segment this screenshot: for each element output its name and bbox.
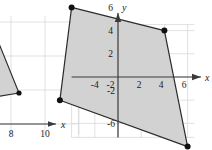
left-x-axis-arrow-icon bbox=[48, 121, 56, 127]
math-figure: 8 10 x bbox=[0, 0, 212, 150]
right-xtick-minus2: -2 bbox=[107, 80, 115, 90]
right-coordinate-plane: 6 4 2 -2 -6 -4 -2 2 4 6 x y bbox=[57, 2, 210, 150]
right-xtick-4: 4 bbox=[159, 80, 164, 90]
right-polygon-vertex bbox=[161, 28, 167, 34]
right-xtick-minus4: -4 bbox=[91, 80, 99, 90]
left-polygon bbox=[0, 36, 19, 101]
right-ytick-6: 6 bbox=[108, 3, 113, 13]
right-y-axis-arrow-icon bbox=[115, 13, 121, 22]
right-y-axis-label: y bbox=[121, 2, 127, 13]
left-polygon-vertex bbox=[16, 90, 21, 95]
right-xtick-2: 2 bbox=[137, 80, 142, 90]
figure-canvas: 8 10 x bbox=[0, 0, 212, 150]
right-ytick-minus6: -6 bbox=[107, 119, 115, 129]
right-polygon-vertex bbox=[57, 97, 63, 103]
left-xtick-8: 8 bbox=[9, 129, 14, 139]
right-x-axis-arrow-icon bbox=[192, 74, 201, 80]
right-xtick-6: 6 bbox=[182, 80, 187, 90]
right-x-axis-label: x bbox=[204, 72, 210, 83]
right-polygon-vertex bbox=[69, 4, 75, 10]
right-polygon-vertex bbox=[185, 144, 191, 150]
left-xtick-10: 10 bbox=[40, 129, 50, 139]
left-x-axis-label: x bbox=[60, 119, 66, 130]
right-ytick-2: 2 bbox=[108, 49, 113, 59]
right-ytick-4: 4 bbox=[108, 26, 113, 36]
